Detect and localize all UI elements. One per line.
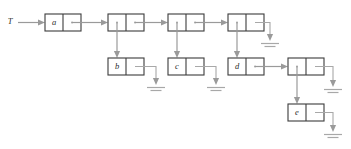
ptr-n1-to-n2-arrowhead (161, 19, 168, 25)
cell-c-car-label: c (175, 61, 179, 71)
ptr-n3-to-d-arrowhead (234, 51, 240, 58)
ptr-n1-to-n2-origin-dot (134, 22, 136, 24)
ptr-n3-to-d-origin-dot (236, 22, 238, 24)
nil-n4-cdr-arrowhead (330, 80, 336, 87)
cell-a-car-label: a (52, 17, 56, 27)
ptr-d-to-n4-arrowhead (281, 63, 288, 69)
nil-c-cdr-arrowhead (213, 78, 219, 85)
ptr-n2-to-n3-origin-dot (194, 22, 196, 24)
root-label-T: T (8, 16, 14, 26)
nil-e-cdr-arrowhead (330, 125, 336, 132)
ptr-n2-to-n3-arrowhead (221, 19, 228, 25)
ptr-n2-to-c-origin-dot (176, 22, 178, 24)
ptr-n1-to-b-arrowhead (114, 51, 120, 58)
ptr-d-to-n4-origin-dot (254, 66, 256, 68)
ptr-a-to-n1-arrowhead (101, 19, 108, 25)
cons-cell-diagram: T a (0, 0, 351, 149)
ptr-n1-to-b-origin-dot (116, 22, 118, 24)
cell-e-car-label: e (295, 107, 299, 117)
diagram-canvas: T a (0, 0, 351, 149)
ptr-a-to-n1-origin-dot (71, 22, 73, 24)
root-pointer-arrowhead (38, 19, 45, 25)
nil-n3-cdr-arrowhead (267, 34, 273, 41)
cell-b-car-label: b (115, 61, 119, 71)
ptr-n2-to-c-arrowhead (174, 51, 180, 58)
nil-b-cdr-arrowhead (153, 78, 159, 85)
root-pointer-group: T (8, 16, 45, 26)
ptr-n4-to-e-arrowhead (294, 97, 300, 104)
ptr-n4-to-e-origin-dot (296, 66, 298, 68)
